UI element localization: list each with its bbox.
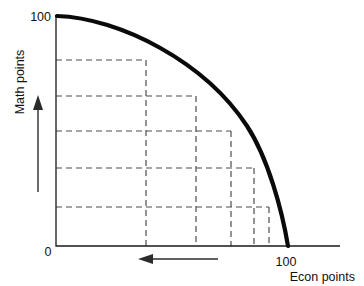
ppf-chart-canvas: 100 0 100 Math points Econ points (0, 0, 364, 286)
y-axis-title: Math points (13, 50, 27, 115)
origin-label: 0 (45, 245, 52, 259)
x-axis-max-label: 100 (276, 255, 297, 269)
ppf-chart: 100 0 100 Math points Econ points (0, 0, 364, 286)
x-axis-title: Econ points (290, 270, 355, 284)
y-axis-max-label: 100 (30, 10, 51, 24)
chart-background (0, 0, 364, 286)
